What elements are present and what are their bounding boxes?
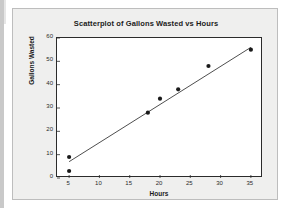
plot-inner: [57, 38, 261, 176]
data-point: [67, 169, 71, 173]
data-point: [67, 155, 71, 159]
regression-line: [69, 47, 251, 161]
x-tick-label: 10: [89, 180, 107, 186]
scan-edge-artifact: [0, 0, 4, 208]
y-tick-label: 60: [35, 33, 53, 39]
x-tick-label: 30: [211, 180, 229, 186]
data-point: [146, 111, 150, 115]
y-axis-title: Gallons Wasted: [28, 21, 35, 101]
scan-edge-artifact-secondary: [4, 0, 6, 24]
y-tick-label: 40: [35, 80, 53, 86]
data-point: [176, 87, 180, 91]
y-tick-label: 20: [35, 126, 53, 132]
scatter-plot-svg: [57, 38, 263, 178]
data-point: [158, 97, 162, 101]
chart-title: Scatterplot of Gallons Wasted vs Hours: [13, 19, 279, 28]
y-tick-label: 10: [35, 150, 53, 156]
x-tick-label: 25: [180, 180, 198, 186]
y-tick-label: 30: [35, 103, 53, 109]
data-point: [249, 48, 253, 52]
data-point: [206, 64, 210, 68]
y-tick-label: 0: [35, 173, 53, 179]
y-tick-label: 50: [35, 56, 53, 62]
chart-figure-panel: Scatterplot of Gallons Wasted vs Hours G…: [12, 8, 278, 200]
x-tick-label: 20: [150, 180, 168, 186]
screenshot-root: Scatterplot of Gallons Wasted vs Hours G…: [0, 0, 289, 208]
x-axis-title: Hours: [56, 190, 262, 197]
plot-area: [56, 37, 262, 177]
x-tick-label: 35: [241, 180, 259, 186]
x-tick-label: 5: [59, 180, 77, 186]
x-tick-label: 15: [120, 180, 138, 186]
